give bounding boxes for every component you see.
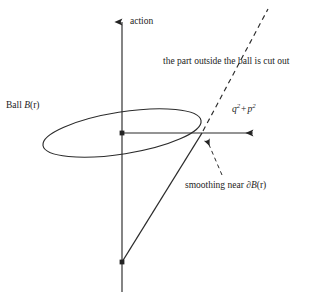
horizontal-axis-label: q2+p2 (232, 102, 256, 115)
ball-label-argument: (r) (30, 100, 40, 110)
cone-apex-dot (120, 260, 125, 265)
vertical-axis-label: action (130, 16, 153, 26)
ball-label: Ball B(r) (6, 100, 40, 110)
smoothing-caption-prefix: smoothing near (185, 180, 244, 190)
diagram-canvas: action the part outside the ball is cut … (0, 0, 332, 298)
axis-label-p-exponent: 2 (252, 102, 255, 109)
diagram-figure (0, 0, 332, 298)
cut-out-caption: the part outside the ball is cut out (163, 56, 289, 66)
ball-label-prefix: Ball (6, 100, 22, 110)
smoothing-caption-argument: (r) (257, 180, 267, 190)
smoothing-leader-line (207, 140, 222, 175)
smoothing-caption: smoothing near ∂B(r) (185, 180, 266, 190)
origin-dot (120, 131, 125, 136)
